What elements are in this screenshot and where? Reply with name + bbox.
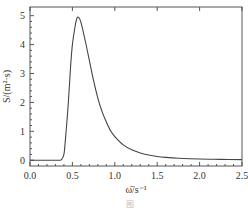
- x-tick-label: 2.5: [236, 170, 248, 181]
- x-axis-label: ω̄/s⁻¹: [125, 184, 146, 195]
- x-tick-label: 1.5: [151, 170, 164, 181]
- y-tick-label: 5: [20, 10, 25, 21]
- figure-caption: 图: [126, 200, 134, 209]
- x-tick-label: 1.0: [109, 170, 122, 181]
- y-tick-label: 1: [20, 126, 25, 137]
- y-axis-ticks: 012345: [20, 10, 34, 166]
- x-tick-label: 2.0: [193, 170, 206, 181]
- spectrum-chart: 0.00.51.01.52.02.5 012345 ω̄/s⁻¹ S/(m²·s…: [0, 0, 248, 210]
- y-tick-label: 0: [20, 155, 25, 166]
- x-axis-ticks: 0.00.51.01.52.02.5: [24, 7, 248, 181]
- plot-frame: [30, 7, 242, 166]
- spectrum-curve: [30, 17, 242, 160]
- x-tick-label: 0.0: [24, 170, 37, 181]
- x-tick-label: 0.5: [66, 170, 79, 181]
- y-tick-label: 2: [20, 97, 25, 108]
- y-tick-label: 3: [20, 68, 25, 79]
- y-axis-label: S/(m²·s): [1, 70, 13, 103]
- y-tick-label: 4: [20, 39, 25, 50]
